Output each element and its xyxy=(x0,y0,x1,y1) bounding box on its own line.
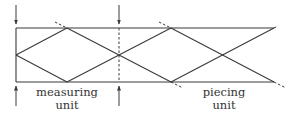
measuring-unit-label-line1: measuring xyxy=(36,85,98,99)
strip-diagram: measuring unit piecing unit xyxy=(0,0,297,116)
zigzag-line xyxy=(16,28,67,55)
measuring-unit-label-line2: unit xyxy=(55,98,78,112)
dashed-extension xyxy=(274,26,278,28)
dashed-extension xyxy=(274,82,286,88)
zigzag-line xyxy=(16,55,67,82)
piecing-unit-label-line1: piecing xyxy=(203,85,246,99)
piecing-unit-label-line2: unit xyxy=(212,98,235,112)
dashed-extension xyxy=(55,22,67,28)
dashed-extension xyxy=(171,82,183,88)
dashed-extension xyxy=(159,22,171,28)
